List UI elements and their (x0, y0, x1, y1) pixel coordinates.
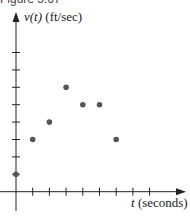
data-point (47, 119, 53, 125)
data-point (13, 172, 19, 178)
x-axis-unit: (seconds) (138, 195, 188, 210)
data-point (80, 102, 86, 108)
data-point (63, 85, 69, 91)
scatter-plot (0, 0, 190, 216)
y-axis-variable: v(t) (24, 9, 42, 24)
y-axis-label: v(t) (ft/sec) (24, 9, 82, 25)
y-axis-arrow-icon (13, 12, 20, 22)
axis-ticks (12, 53, 150, 196)
y-axis-unit: (ft/sec) (45, 9, 82, 24)
data-point (97, 102, 103, 108)
axes (0, 12, 186, 211)
x-axis-variable: t (131, 195, 135, 210)
data-point (113, 137, 119, 143)
x-axis-label: t (seconds) (131, 195, 188, 211)
data-point (30, 137, 36, 143)
data-points (13, 85, 119, 178)
